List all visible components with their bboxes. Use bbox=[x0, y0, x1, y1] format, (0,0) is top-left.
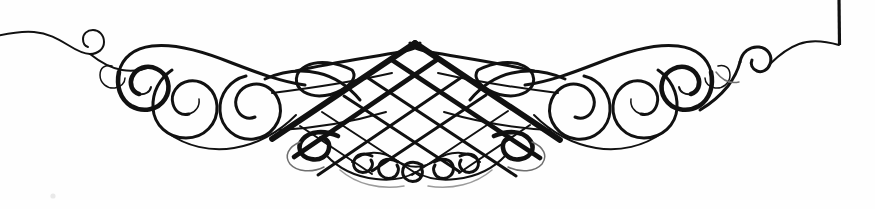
right-margin-rule bbox=[839, 0, 840, 45]
left-tail-wave bbox=[0, 32, 90, 54]
left-spiral-outer bbox=[118, 67, 168, 110]
base-loop-e bbox=[460, 154, 479, 172]
lattice-flank-curls bbox=[287, 132, 545, 171]
left-spiral-inner-wisp bbox=[189, 99, 199, 114]
right-tail-curl bbox=[740, 47, 771, 72]
right-tail-wave bbox=[770, 41, 839, 64]
paper-speck bbox=[50, 193, 55, 198]
base-loop-band bbox=[326, 153, 506, 187]
left-tail-group bbox=[0, 30, 152, 71]
left-spiral-third bbox=[220, 76, 281, 139]
right-tail-group bbox=[700, 41, 839, 110]
right-spiral-inner-wisp bbox=[631, 99, 641, 114]
right-spiral-third bbox=[550, 76, 611, 139]
flourish-artwork: Decorative Penwork Flourish Scanned blac… bbox=[0, 0, 875, 209]
margin-rule-group bbox=[839, 0, 840, 45]
lattice-sweeps bbox=[272, 43, 558, 130]
base-loop-b bbox=[379, 159, 399, 178]
right-spiral-outer bbox=[662, 67, 712, 110]
left-tail-curl bbox=[83, 30, 104, 54]
ornament-page: Decorative Penwork Flourish Scanned blac… bbox=[0, 0, 875, 209]
lattice-left-flank-curl bbox=[300, 132, 338, 159]
